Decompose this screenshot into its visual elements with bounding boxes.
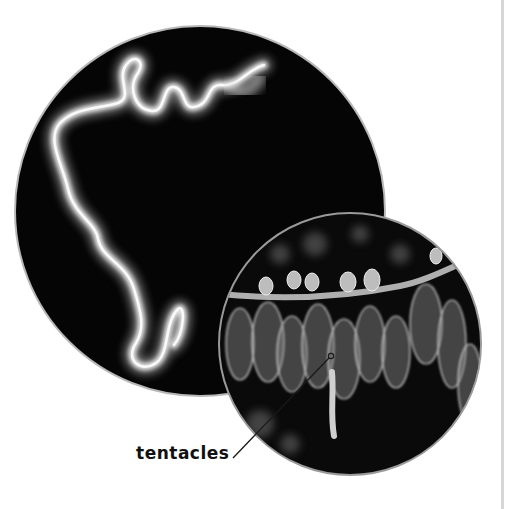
detail-photo-circle: [218, 212, 482, 476]
swimming-bells-illustration: [220, 214, 482, 476]
page-margin-rule: [501, 0, 504, 509]
tentacles-label: tentacles: [136, 443, 229, 463]
